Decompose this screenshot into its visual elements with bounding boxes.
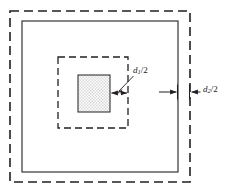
d1-leader-line <box>119 76 134 92</box>
diagram-svg <box>0 0 233 191</box>
inner-filled-square <box>78 75 110 112</box>
d2-dimension-arrows <box>159 85 201 100</box>
figure-canvas: d1/2 d2/2 <box>0 0 233 191</box>
d2-half-label: d2/2 <box>203 85 218 95</box>
d1-half-label: d1/2 <box>133 66 148 76</box>
d2-divisor: /2 <box>211 84 218 94</box>
d1-divisor: /2 <box>141 65 148 75</box>
